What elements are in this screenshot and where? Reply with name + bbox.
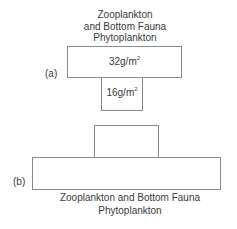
panel-a-legend-line-3: Phytoplankton	[64, 32, 186, 44]
panel-a-zooplankton-value: 32g/m2	[68, 56, 181, 67]
panel-a-phytoplankton-box: 16g/m2	[101, 77, 143, 111]
panel-b-zooplankton-box	[94, 125, 159, 158]
panel-b-label: (b)	[13, 176, 25, 187]
panel-a-label: (a)	[45, 68, 57, 79]
panel-a-legend-line-2: and Bottom Fauna	[64, 21, 186, 33]
panel-b-legend-line-2: Phytoplankton	[40, 204, 220, 217]
panel-a-zooplankton-box: 32g/m2	[67, 46, 182, 78]
panel-b-phytoplankton-box	[32, 157, 221, 190]
panel-a-legend: Zooplankton and Bottom Fauna Phytoplankt…	[64, 9, 186, 44]
panel-b-legend: Zooplankton and Bottom Fauna Phytoplankt…	[40, 191, 220, 217]
panel-a-legend-line-1: Zooplankton	[64, 9, 186, 21]
panel-b-legend-line-1: Zooplankton and Bottom Fauna	[40, 191, 220, 204]
panel-a-phytoplankton-value: 16g/m2	[102, 87, 142, 98]
